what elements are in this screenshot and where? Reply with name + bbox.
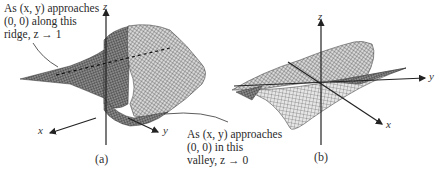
ridge-callout-line — [33, 43, 58, 67]
panel-a-x-axis-label: x — [38, 124, 43, 136]
ridge-annotation-line2: (0, 0) along this — [4, 15, 99, 28]
ridge-annotation-line1: As (x, y) approaches — [4, 2, 99, 15]
panel-a-y-axis-label: y — [163, 124, 168, 136]
valley-annotation: As (x, y) approaches (0, 0) in this vall… — [187, 128, 282, 167]
panel-a-caption: (a) — [95, 152, 108, 167]
panel-b-y-axis-label: y — [429, 70, 434, 82]
valley-annotation-line2: (0, 0) in this — [187, 141, 282, 154]
panel-b-x-axis-label: x — [386, 118, 391, 130]
valley-annotation-line3: valley, z → 0 — [187, 154, 282, 167]
valley-annotation-line1: As (x, y) approaches — [187, 128, 282, 141]
ridge-annotation: As (x, y) approaches (0, 0) along this r… — [4, 2, 99, 41]
panel-b-caption: (b) — [314, 150, 328, 165]
panel-b-z-axis-label: z — [318, 10, 322, 22]
ridge-annotation-line3: ridge, z → 1 — [4, 28, 99, 41]
panel-a-z-axis-label: z — [103, 0, 107, 12]
valley-callout-line — [164, 113, 228, 122]
